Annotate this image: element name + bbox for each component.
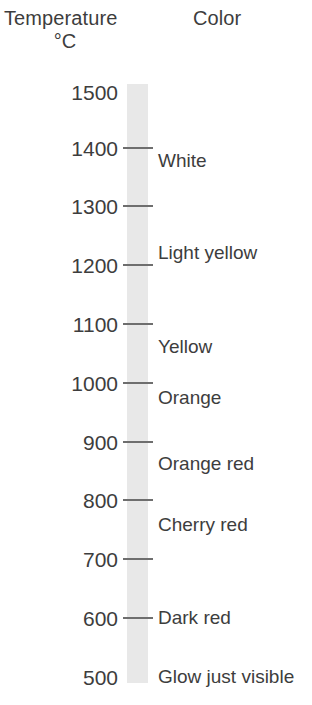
temperature-color-scale-chart: Temperature °C Color 1500140013001200110… [0,0,312,705]
color-label-glow-just-visible: Glow just visible [158,667,294,686]
axis-tick-700 [123,558,153,560]
temperature-label-900: 900 [0,432,118,453]
temperature-label-1000: 1000 [0,373,118,394]
temperature-label-500: 500 [0,667,118,688]
temperature-label-1200: 1200 [0,255,118,276]
axis-tick-800 [123,499,153,501]
temperature-label-800: 800 [0,490,118,511]
axis-tick-900 [123,441,153,443]
column-header-color: Color [193,8,241,28]
axis-tick-1400 [123,147,153,149]
axis-tick-1100 [123,323,153,325]
color-label-dark-red: Dark red [158,608,231,627]
axis-tick-600 [123,617,153,619]
color-label-cherry-red: Cherry red [158,515,248,534]
color-label-white: White [158,151,207,170]
axis-tick-1000 [123,382,153,384]
color-label-orange-red: Orange red [158,454,254,473]
temperature-label-600: 600 [0,608,118,629]
axis-tick-1200 [123,264,153,266]
temperature-label-700: 700 [0,549,118,570]
column-header-temperature: Temperature [4,8,126,28]
temperature-label-1300: 1300 [0,196,118,217]
column-header-temperature-unit: °C [4,31,126,51]
axis-tick-1300 [123,205,153,207]
temperature-label-1400: 1400 [0,138,118,159]
temperature-label-1500: 1500 [0,82,118,103]
color-label-yellow: Yellow [158,337,212,356]
temperature-label-1100: 1100 [0,314,118,335]
color-label-light-yellow: Light yellow [158,243,257,262]
color-label-orange: Orange [158,388,221,407]
